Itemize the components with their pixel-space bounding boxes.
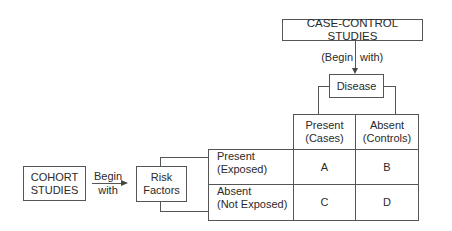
row-header-line1: Present bbox=[217, 150, 255, 163]
case-control-studies-box: CASE-CONTROL STUDIES bbox=[282, 19, 423, 41]
risk-bracket-bottom bbox=[160, 211, 208, 212]
risk-factors-line2: Factors bbox=[143, 184, 180, 197]
case-control-title: CASE-CONTROL STUDIES bbox=[283, 17, 422, 43]
disease-bracket-right-top bbox=[383, 86, 395, 87]
row-header-line2: (Exposed) bbox=[217, 163, 267, 176]
disease-box: Disease bbox=[329, 74, 384, 98]
column-header-cases: Present (Cases) bbox=[293, 114, 356, 150]
begin-with-left-label: (Begin bbox=[320, 51, 353, 64]
cell-b: B bbox=[355, 149, 419, 185]
cohort-studies-box: COHORT STUDIES bbox=[23, 166, 86, 201]
cell-d: D bbox=[355, 184, 419, 221]
row-header-line2: (Not Exposed) bbox=[217, 198, 287, 211]
cell-c: C bbox=[293, 184, 356, 221]
cohort-title-line1: COHORT bbox=[31, 171, 78, 184]
cohort-arrow-line bbox=[92, 183, 122, 184]
column-header-line2: (Controls) bbox=[363, 132, 411, 145]
disease-label: Disease bbox=[337, 80, 377, 93]
column-header-line1: Present bbox=[306, 119, 344, 132]
column-header-line1: Absent bbox=[370, 119, 404, 132]
cohort-title-line2: STUDIES bbox=[31, 184, 79, 197]
begin-with-right-label: with) bbox=[360, 51, 392, 64]
row-header-exposed: Present (Exposed) bbox=[208, 149, 294, 185]
disease-bracket-left bbox=[318, 86, 319, 114]
risk-bracket-top bbox=[160, 157, 208, 158]
risk-factors-box: Risk Factors bbox=[136, 166, 187, 202]
row-header-not-exposed: Absent (Not Exposed) bbox=[208, 184, 294, 221]
column-header-line2: (Cases) bbox=[305, 132, 344, 145]
case-control-arrow-line bbox=[355, 41, 356, 70]
arrow-right-icon bbox=[121, 180, 128, 186]
row-header-line1: Absent bbox=[217, 185, 251, 198]
cell-a: A bbox=[293, 149, 356, 185]
column-header-controls: Absent (Controls) bbox=[355, 114, 419, 150]
risk-factors-line1: Risk bbox=[151, 171, 172, 184]
disease-bracket-right bbox=[395, 86, 396, 114]
